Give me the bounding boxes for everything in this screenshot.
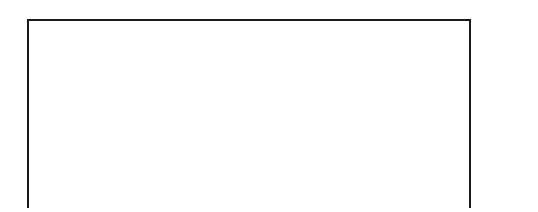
bar-series-layer <box>29 21 469 208</box>
y-axis <box>471 19 538 212</box>
plot-area <box>27 19 471 208</box>
